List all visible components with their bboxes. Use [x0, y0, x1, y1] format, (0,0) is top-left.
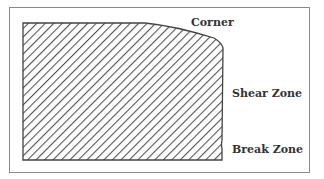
break-zone-label: Break Zone	[232, 143, 303, 156]
cross-section-shape	[23, 23, 223, 160]
shear-zone-label: Shear Zone	[232, 87, 302, 100]
corner-label: Corner	[191, 16, 234, 29]
